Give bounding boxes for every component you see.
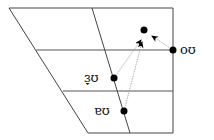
- ou-dot: [170, 47, 177, 54]
- label-bu: ɐʊ: [94, 104, 110, 117]
- bu-dot: [121, 108, 128, 115]
- trajectory-bu: [124, 42, 142, 111]
- label-3u: ɜ̞ʊ: [84, 71, 99, 84]
- trajectory-ou: [152, 36, 173, 50]
- label-ou: oʊ: [180, 43, 196, 56]
- target-dot: [141, 27, 148, 34]
- 3u-dot: [111, 75, 118, 82]
- trajectory-3u: [114, 40, 141, 78]
- vowel-chart-svg: [0, 0, 214, 140]
